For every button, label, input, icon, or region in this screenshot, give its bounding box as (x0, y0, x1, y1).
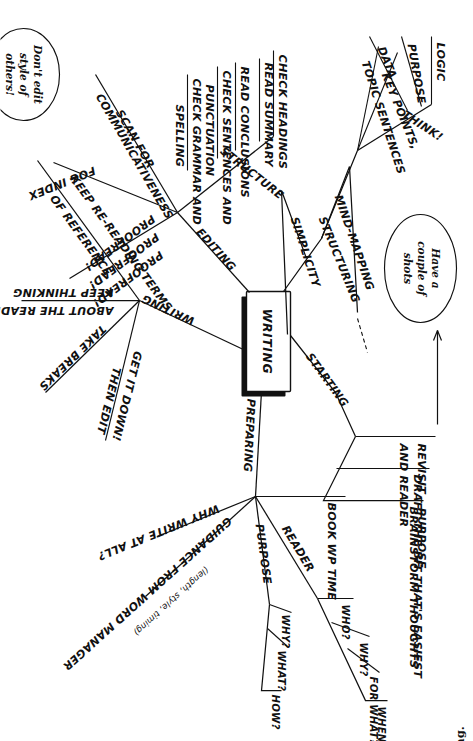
leaf-brainstorm: BRAINSTORM THOUGHTS (406, 506, 419, 668)
center-node-label: WRITING (259, 308, 274, 374)
style-bubble-line-2: style of (17, 52, 29, 98)
shots-bubble-line-3: shots (401, 252, 413, 284)
figure-title: Example of mind-mapping. (453, 726, 467, 741)
style-bubble-line-1: Don't edit (31, 44, 43, 104)
leaf-book-wp-time: BOOK WP TIME (324, 502, 337, 600)
leaf-reader-why: WHY? (357, 642, 368, 676)
branch-label-editing: EDITING (193, 225, 238, 273)
branch-preparing: PREPARING BOOK WP TIME READER WHO? WHY? … (60, 391, 387, 741)
shots-bubble-line-1: Have a (429, 247, 441, 288)
branch-label-starting: STARTING (303, 350, 351, 409)
style-bubble-line-3: others! (3, 53, 15, 96)
mind-map-svg: WRITING STRUCTURING KEY POINTS, TOPIC SE… (0, 0, 473, 741)
leaf-punctuation: PUNCTUATION (202, 84, 215, 176)
leaf-when: WHEN? (375, 706, 386, 741)
leaf-purpose-how: HOW? (269, 694, 280, 729)
mind-map-canvas: WRITING STRUCTURING KEY POINTS, TOPIC SE… (0, 0, 473, 741)
shots-bubble-line-2: couple of (415, 241, 427, 298)
center-node: WRITING (241, 291, 290, 396)
branch-writing: WRITING GET IT DOWN! THEN EDIT TAKE BREA… (0, 160, 245, 442)
leaf-of-reference: OF REFERENCE (47, 192, 114, 278)
leaf-take-breaks: TAKE BREAKS (36, 322, 108, 392)
leaf-read-summary: READ SUMMARY (261, 62, 274, 168)
leaf-purpose-prep: PURPOSE (252, 523, 273, 585)
leaf-purpose-what: WHAT? (275, 650, 286, 691)
leaf-logic: LOGIC (433, 42, 446, 81)
leaf-check-grammar: CHECK GRAMMAR AND (189, 78, 202, 225)
leaf-check-headings: CHECK HEADINGS (275, 54, 288, 169)
leaf-communicativeness: COMMUNICATIVENESS (92, 91, 175, 221)
figure-caption: Figure 16.5 Example of mind-mapping. (453, 737, 467, 741)
leaf-purpose-think: PURPOSE (404, 42, 427, 104)
leaf-data: DATA (374, 44, 398, 80)
leaf-who: WHO? (339, 604, 350, 639)
leaf-spelling: SPELLING (172, 104, 185, 166)
annotation-shots-bubble: Have a couple of shots (384, 214, 456, 424)
leaf-purpose-why: WHY? (279, 614, 290, 648)
figure-page: WRITING STRUCTURING KEY POINTS, TOPIC SE… (0, 0, 473, 741)
annotation-style-bubble: Don't edit style of others! (0, 28, 59, 120)
leaf-read-conclusions: READ CONCLUSIONS (237, 66, 250, 197)
branch-label-preparing: PREPARING (240, 398, 257, 472)
leaf-check-sentences: CHECK SENTENCES AND (219, 70, 232, 225)
